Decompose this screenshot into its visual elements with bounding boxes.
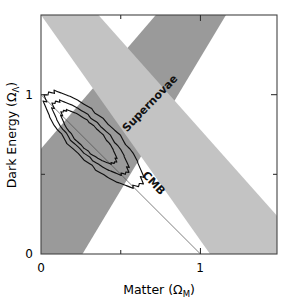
y-axis-title-tail: ) — [4, 82, 19, 87]
omega-m-omega-lambda-plot: 0 1 0 1 Matter (ΩM) Dark Energy (ΩΛ) Sup… — [0, 0, 294, 304]
x-axis-title: Matter (ΩM) — [123, 282, 195, 299]
x-axis-title-main: Matter (Ω — [123, 282, 183, 297]
y-tick-label-1: 1 — [25, 88, 33, 102]
cosmology-constraint-figure: 0 1 0 1 Matter (ΩM) Dark Energy (ΩΛ) Sup… — [0, 0, 294, 304]
x-axis-title-subscript: M — [183, 289, 190, 299]
x-tick-label-0: 0 — [37, 261, 45, 275]
y-axis-title-main: Dark Energy (Ω — [4, 92, 19, 188]
y-tick-label-0: 0 — [25, 247, 33, 261]
y-axis-title: Dark Energy (ΩΛ) — [4, 82, 21, 189]
x-axis-title-tail: ) — [190, 282, 195, 297]
x-tick-label-1: 1 — [196, 261, 204, 275]
